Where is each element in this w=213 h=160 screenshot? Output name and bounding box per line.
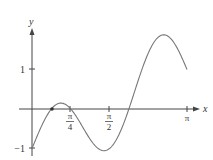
- zero-crossing-point: [50, 107, 54, 111]
- y-axis-arrow-icon: [30, 28, 35, 35]
- function-curve: [32, 35, 187, 151]
- x-tick-label-pi4-den: 4: [68, 122, 73, 132]
- x-axis-label: x: [202, 103, 208, 114]
- x-tick-label-pi: π: [185, 113, 190, 123]
- x-tick-label-pi4-num: π: [68, 111, 73, 121]
- y-tick-label-1: 1: [20, 64, 25, 75]
- y-tick-label-neg-1: −1: [14, 143, 25, 154]
- function-plot: x y π 4 π 2 π 1 −1: [0, 0, 213, 160]
- x-tick-label-pi2-den: 2: [107, 122, 112, 132]
- y-axis-label: y: [28, 16, 34, 27]
- x-axis-arrow-icon: [193, 107, 200, 112]
- x-tick-label-pi2-num: π: [107, 111, 112, 121]
